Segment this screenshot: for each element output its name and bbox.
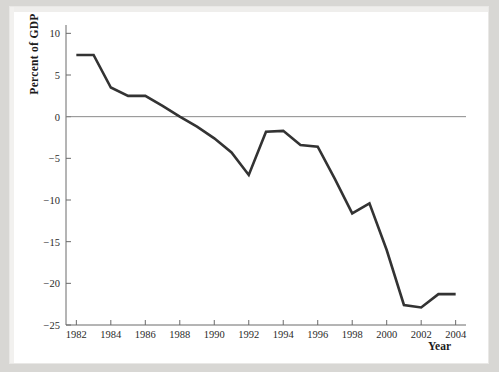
y-tick-label: 0 — [30, 111, 60, 122]
x-tick-label: 2000 — [370, 329, 404, 340]
x-tick-label: 2002 — [404, 329, 438, 340]
x-axis-title: Year — [428, 340, 451, 352]
y-tick-label: −15 — [30, 236, 60, 247]
x-tick-label: 1994 — [266, 329, 300, 340]
x-tick-label: 1996 — [301, 329, 335, 340]
x-tick-label: 1990 — [197, 329, 231, 340]
x-tick-label: 1992 — [232, 329, 266, 340]
x-tick-label: 2004 — [439, 329, 473, 340]
y-axis-title: Percent of GDP — [28, 0, 40, 114]
paper-edge-top — [10, 7, 488, 12]
figure-page: Percent of GDP Year 1050−5−10−15−20−25 1… — [0, 0, 499, 372]
y-tick-label: −25 — [30, 320, 60, 331]
y-tick-label: 5 — [30, 70, 60, 81]
y-tick-label: −20 — [30, 278, 60, 289]
x-tick-label: 1988 — [163, 329, 197, 340]
x-tick-label: 1998 — [335, 329, 369, 340]
chart-figure-panel — [10, 7, 488, 363]
y-tick-label: −10 — [30, 195, 60, 206]
paper-edge-left — [10, 7, 14, 363]
x-tick-label: 1982 — [59, 329, 93, 340]
x-tick-label: 1984 — [94, 329, 128, 340]
y-tick-label: 10 — [30, 28, 60, 39]
y-tick-label: −5 — [30, 153, 60, 164]
x-tick-label: 1986 — [128, 329, 162, 340]
